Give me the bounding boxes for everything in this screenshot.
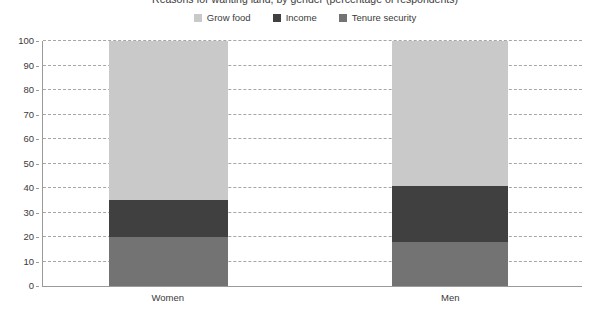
bar-segment-women-grow-food[interactable] [109, 41, 229, 200]
legend-item-income[interactable]: Income [273, 13, 317, 23]
bar-segment-men-grow-food[interactable] [392, 41, 508, 186]
y-tick-label-40: 40 [23, 183, 34, 193]
y-tick-mark-80 [36, 90, 39, 91]
bar-segment-women-income[interactable] [109, 200, 229, 237]
y-tick-mark-20 [36, 237, 39, 238]
y-tick-mark-60 [36, 139, 39, 140]
y-tick-label-80: 80 [23, 85, 34, 95]
legend-label-tenure-security: Tenure security [352, 13, 416, 23]
y-tick-label-60: 60 [23, 134, 34, 144]
y-tick-mark-40 [36, 188, 39, 189]
bar-men[interactable] [392, 41, 508, 286]
legend-swatch-income-icon [273, 14, 281, 22]
y-tick-mark-50 [36, 164, 39, 165]
y-tick-mark-70 [36, 115, 39, 116]
y-tick-label-100: 100 [18, 36, 34, 46]
y-tick-label-70: 70 [23, 110, 34, 120]
y-tick-label-10: 10 [23, 257, 34, 267]
plot-area [42, 41, 582, 287]
chart-title-strip: Reasons for wanting land, by gender (per… [0, 0, 610, 9]
bar-segment-men-income[interactable] [392, 186, 508, 242]
legend-item-tenure-security[interactable]: Tenure security [339, 13, 416, 23]
y-tick-mark-100 [36, 41, 39, 42]
legend-label-income: Income [286, 13, 317, 23]
legend-swatch-tenure-security-icon [339, 14, 347, 22]
y-tick-label-20: 20 [23, 232, 34, 242]
y-tick-label-30: 30 [23, 208, 34, 218]
x-axis-label-women: Women [152, 292, 185, 304]
bar-segment-women-tenure-security[interactable] [109, 237, 229, 286]
legend-label-grow-food: Grow food [207, 13, 251, 23]
legend-swatch-grow-food-icon [194, 14, 202, 22]
y-tick-mark-90 [36, 66, 39, 67]
y-tick-mark-10 [36, 262, 39, 263]
bar-women[interactable] [109, 41, 229, 286]
chart-title: Reasons for wanting land, by gender (per… [0, 0, 610, 5]
x-axis: WomenMen [42, 292, 582, 308]
legend-item-grow-food[interactable]: Grow food [194, 13, 251, 23]
y-axis: 1009080706050403020100 [0, 41, 38, 287]
y-tick-label-90: 90 [23, 61, 34, 71]
y-tick-mark-0 [36, 286, 39, 287]
x-axis-label-men: Men [441, 292, 459, 304]
y-tick-label-50: 50 [23, 159, 34, 169]
bar-segment-men-tenure-security[interactable] [392, 242, 508, 286]
y-tick-label-0: 0 [29, 281, 34, 291]
chart-legend: Grow food Income Tenure security [0, 13, 610, 23]
y-tick-mark-30 [36, 213, 39, 214]
